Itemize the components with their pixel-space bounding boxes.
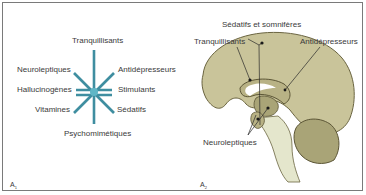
label-neuroleptiques-brain: Neuroleptiques [203, 139, 257, 147]
panel-label-a2: A2 [200, 181, 207, 190]
label-antidepresseurs-brain: Antidépresseurs [300, 38, 358, 46]
label-tranquillisants-brain: Tranquillisants [194, 38, 245, 46]
cerebellum [294, 119, 339, 163]
brain-diagram [0, 0, 366, 195]
label-sedatifs-somniferes: Sédatifs et somnifères [222, 21, 301, 29]
